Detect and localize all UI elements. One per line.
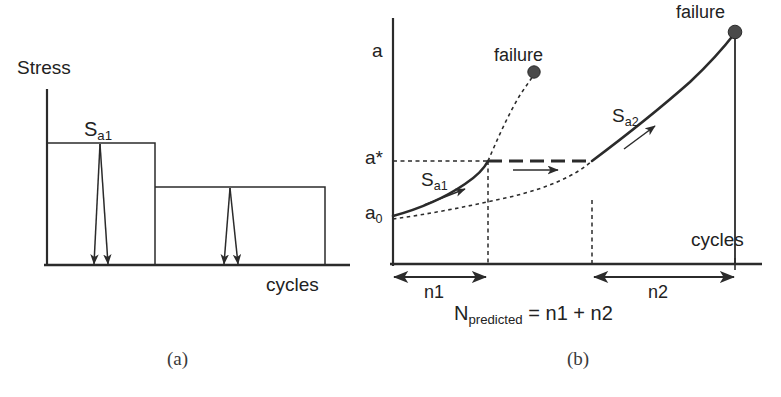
- panel-b-x-axis-label: cycles: [691, 230, 744, 249]
- panel-b-caption: (b): [567, 348, 589, 370]
- panel-a-block-amplitude-label: Sa1: [84, 119, 112, 139]
- panel-b-equation: Npredicted = n1 + n2: [454, 303, 613, 323]
- panel-a-y-axis-label: Stress: [17, 58, 71, 77]
- panel-a-caption: (a): [167, 348, 188, 370]
- panel-b-segment-label-sa2: Sa2: [612, 106, 639, 125]
- panel-b-tick-label-a-star: a*: [365, 148, 383, 167]
- panel-b-segment-sa1-sub: a1: [434, 179, 448, 193]
- panel-b-segment-sa2-base: S: [612, 105, 625, 126]
- failure-point-1-marker: [528, 66, 540, 78]
- panel-b-failure-label-2: failure: [676, 3, 725, 21]
- panel-b-y-axis-label: a: [372, 41, 383, 60]
- panel-b-equation-lhs: N: [454, 302, 468, 324]
- panel-b-segment-sa2-sub: a2: [625, 115, 639, 129]
- panel-b-interval-label-n2: n2: [648, 283, 668, 301]
- panel-b-tick-label-a-zero: a0: [365, 203, 383, 222]
- panel-b-tick-a-zero-base: a: [365, 202, 376, 223]
- fatigue-figure: Stress Sa1 cycles a a* a0 failure failur…: [0, 0, 781, 397]
- panel-b-segment-sa1-base: S: [421, 169, 434, 190]
- figure-vector-layer: [0, 0, 781, 397]
- panel-b-sa2-direction-arrow: [624, 126, 655, 149]
- panel-a-amplitude-arrow-1: [94, 144, 108, 264]
- panel-b-equation-lhs-sub: predicted: [468, 312, 522, 327]
- panel-b-failure-1-dotted-curve: [488, 76, 533, 161]
- panel-a-block-amplitude-sub: a1: [97, 128, 112, 143]
- panel-b-tick-a-zero-sub: 0: [376, 212, 383, 226]
- panel-a-block-amplitude-base: S: [84, 118, 97, 140]
- panel-b-failure-label-1: failure: [494, 46, 543, 64]
- panel-b-interval-label-n1: n1: [424, 283, 444, 301]
- failure-point-2-marker: [728, 25, 742, 39]
- panel-b-segment-label-sa1: Sa1: [421, 170, 448, 189]
- panel-b-equation-rhs: = n1 + n2: [523, 302, 613, 324]
- panel-a-x-axis-label: cycles: [266, 275, 319, 294]
- panel-a-axes: [44, 89, 350, 265]
- panel-a-amplitude-arrow-2: [224, 188, 238, 264]
- panel-a-block-2: [155, 187, 325, 265]
- panel-b-transfer-dashed-line: [488, 161, 592, 170]
